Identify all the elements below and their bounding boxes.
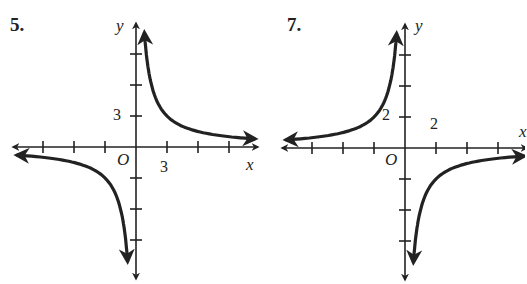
x-tick-label: 3 — [160, 158, 168, 176]
x-tick-label: 2 — [430, 115, 438, 133]
y-tick-label: 2 — [382, 106, 390, 124]
y-tick-label: 3 — [113, 106, 121, 124]
y-axis-label: y — [415, 16, 423, 36]
y-axis-label: y — [116, 16, 124, 36]
origin-label: O — [385, 150, 397, 170]
x-axis-label: x — [519, 122, 527, 142]
problem-number-5: 5. — [10, 14, 24, 36]
problem-number-7: 7. — [287, 14, 301, 36]
x-axis-label: x — [246, 155, 254, 175]
origin-label: O — [117, 150, 129, 170]
